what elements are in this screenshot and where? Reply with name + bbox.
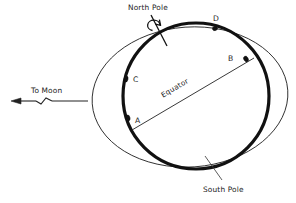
arrowhead-left-icon (11, 98, 21, 104)
to-moon-label: To Moon (30, 86, 62, 95)
equator-line (132, 58, 254, 130)
tidal-bulge-diagram: Equator North Pole South Pole To Moon D (0, 0, 296, 203)
tidal-bulge-ellipse (87, 20, 292, 173)
north-pole-label: North Pole (128, 3, 168, 12)
equator-label: Equator (159, 76, 190, 99)
diagram-root: Equator North Pole South Pole To Moon D (0, 0, 296, 203)
point-label-c: C (133, 75, 138, 84)
point-label-d: D (213, 14, 219, 23)
point-label-b: B (228, 54, 233, 63)
south-pole-label: South Pole (203, 185, 244, 194)
earth-circle (123, 23, 269, 169)
point-label-a: A (135, 116, 141, 125)
to-moon-arrow (11, 98, 88, 104)
surface-point-b: B (228, 54, 249, 63)
